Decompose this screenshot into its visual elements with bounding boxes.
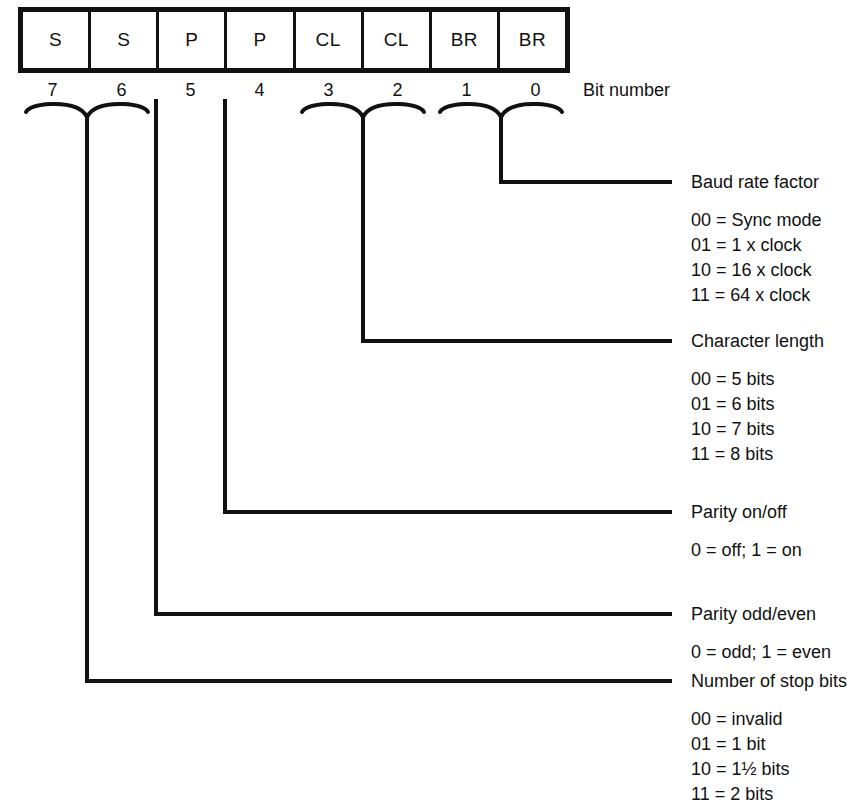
field-baud-rate-factor: Baud rate factor 00 = Sync mode 01 = 1 x… (691, 170, 822, 308)
bit-number: 7 (18, 78, 87, 102)
register-cell: CL (364, 12, 432, 68)
leader-baud-rate-factor (501, 117, 672, 182)
field-number-of-stop-bits: Number of stop bits 00 = invalid 01 = 1 … (691, 669, 847, 804)
register-cell: P (227, 12, 295, 68)
field-parity-odd-even: Parity odd/even 0 = odd; 1 = even (691, 602, 831, 665)
field-heading: Number of stop bits (691, 669, 847, 694)
field-heading: Character length (691, 329, 824, 354)
bit-number: 5 (156, 78, 225, 102)
register-cell: BR (500, 12, 565, 68)
field-option: 01 = 6 bits (691, 392, 824, 417)
register-cell-label: CL (384, 29, 409, 51)
field-option: 0 = odd; 1 = even (691, 640, 831, 665)
field-option: 11 = 2 bits (691, 782, 847, 804)
field-heading: Baud rate factor (691, 170, 822, 195)
register-cell-label: BR (519, 29, 546, 51)
bit-number-axis-label: Bit number (583, 78, 670, 102)
field-option: 10 = 7 bits (691, 417, 824, 442)
field-option: 0 = off; 1 = on (691, 538, 802, 563)
field-heading: Parity odd/even (691, 602, 831, 627)
register-cell: BR (432, 12, 500, 68)
field-parity-on-off: Parity on/off 0 = off; 1 = on (691, 500, 802, 563)
register-cell-label: BR (451, 29, 478, 51)
bit-number: 4 (225, 78, 294, 102)
bit-number: 0 (501, 78, 570, 102)
field-option: 10 = 1½ bits (691, 757, 847, 782)
register-byte: S S P P CL CL BR BR (18, 7, 570, 73)
brace-character-length (302, 104, 424, 117)
brace-stop-bits (26, 104, 148, 117)
register-cell-label: P (185, 29, 198, 51)
field-option: 00 = 5 bits (691, 367, 824, 392)
field-option: 11 = 64 x clock (691, 283, 822, 308)
bit-number: 2 (363, 78, 432, 102)
register-cell: S (23, 12, 91, 68)
field-option: 00 = Sync mode (691, 208, 822, 233)
field-option: 00 = invalid (691, 707, 847, 732)
bit-number-row: 7 6 5 4 3 2 1 0 (18, 78, 570, 102)
register-cell: S (91, 12, 159, 68)
leader-number-of-stop-bits (87, 117, 672, 681)
field-option: 01 = 1 x clock (691, 233, 822, 258)
register-cell: CL (296, 12, 364, 68)
field-option: 10 = 16 x clock (691, 258, 822, 283)
field-character-length: Character length 00 = 5 bits 01 = 6 bits… (691, 329, 824, 467)
field-option: 01 = 1 bit (691, 732, 847, 757)
register-cell: P (159, 12, 227, 68)
register-cell-label: S (117, 29, 130, 51)
leader-parity-on-off (225, 99, 672, 512)
bit-number: 6 (87, 78, 156, 102)
register-cell-label: P (253, 29, 266, 51)
field-heading: Parity on/off (691, 500, 802, 525)
brace-baud-rate (440, 104, 562, 117)
register-cell-label: CL (316, 29, 341, 51)
leader-parity-odd-even (156, 99, 672, 614)
leader-character-length (363, 117, 672, 341)
bit-number: 3 (294, 78, 363, 102)
field-option: 11 = 8 bits (691, 442, 824, 467)
bit-number: 1 (432, 78, 501, 102)
register-cell-label: S (49, 29, 62, 51)
